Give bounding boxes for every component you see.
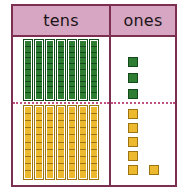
unit-cube bbox=[80, 143, 86, 150]
unit-cube bbox=[58, 121, 64, 128]
unit-cube bbox=[25, 93, 31, 99]
unit-cube bbox=[91, 93, 97, 99]
ten-rod-yellow bbox=[68, 106, 76, 179]
one-unit-yellow bbox=[129, 138, 137, 146]
ten-rod-yellow bbox=[57, 106, 65, 179]
ten-rod-yellow bbox=[35, 106, 43, 179]
unit-cube bbox=[58, 107, 64, 114]
unit-cube bbox=[36, 93, 42, 99]
unit-cube bbox=[69, 114, 75, 121]
unit-cube bbox=[91, 171, 97, 178]
tens-band-yellow bbox=[13, 104, 109, 183]
unit-cube bbox=[58, 157, 64, 164]
one-unit-yellow bbox=[150, 166, 158, 174]
unit-cube bbox=[47, 107, 53, 114]
column-ones bbox=[111, 37, 175, 185]
place-value-chart: tens ones bbox=[11, 4, 177, 187]
unit-cube bbox=[25, 164, 31, 171]
ten-rod-green bbox=[90, 40, 98, 100]
unit-cube bbox=[69, 135, 75, 142]
unit-cube bbox=[36, 164, 42, 171]
unit-cube bbox=[47, 121, 53, 128]
unit-cube bbox=[69, 150, 75, 157]
chart-header-row: tens ones bbox=[13, 6, 175, 37]
unit-cube bbox=[36, 157, 42, 164]
unit-cube bbox=[91, 107, 97, 114]
one-unit-green bbox=[129, 74, 137, 82]
unit-cube bbox=[36, 128, 42, 135]
tens-band-green bbox=[13, 37, 109, 104]
unit-cube bbox=[80, 135, 86, 142]
unit-cube bbox=[91, 128, 97, 135]
unit-cube bbox=[36, 150, 42, 157]
ten-rod-green bbox=[35, 40, 43, 100]
ones-band-green bbox=[111, 37, 175, 104]
unit-cube bbox=[80, 171, 86, 178]
tens-rod-group-green bbox=[13, 40, 109, 100]
ten-rod-yellow bbox=[79, 106, 87, 179]
unit-cube bbox=[91, 150, 97, 157]
header-cell-tens: tens bbox=[13, 6, 111, 35]
unit-cube bbox=[80, 150, 86, 157]
unit-cube bbox=[25, 143, 31, 150]
unit-cube bbox=[69, 107, 75, 114]
ten-rod-green bbox=[79, 40, 87, 100]
unit-cube bbox=[47, 143, 53, 150]
unit-cube bbox=[58, 150, 64, 157]
ones-unit-group-green bbox=[111, 58, 175, 106]
unit-cube bbox=[25, 114, 31, 121]
unit-cube bbox=[80, 128, 86, 135]
one-unit-yellow bbox=[129, 110, 137, 118]
unit-cube bbox=[36, 107, 42, 114]
ten-rod-yellow bbox=[46, 106, 54, 179]
header-label-ones: ones bbox=[124, 13, 163, 29]
unit-cube bbox=[69, 121, 75, 128]
header-label-tens: tens bbox=[43, 13, 78, 29]
unit-cube bbox=[58, 93, 64, 99]
chart-body-row bbox=[13, 37, 175, 185]
unit-cube bbox=[47, 114, 53, 121]
unit-cube bbox=[47, 164, 53, 171]
unit-cube bbox=[25, 171, 31, 178]
unit-cube bbox=[36, 135, 42, 142]
unit-cube bbox=[69, 164, 75, 171]
ten-rod-yellow bbox=[24, 106, 32, 179]
unit-cube bbox=[25, 121, 31, 128]
unit-cube bbox=[58, 135, 64, 142]
unit-cube bbox=[25, 107, 31, 114]
unit-cube bbox=[47, 128, 53, 135]
ten-rod-yellow bbox=[90, 106, 98, 179]
one-unit-green bbox=[129, 90, 137, 98]
unit-cube bbox=[80, 157, 86, 164]
unit-cube bbox=[58, 171, 64, 178]
unit-cube bbox=[91, 121, 97, 128]
unit-cube bbox=[58, 128, 64, 135]
unit-cube bbox=[36, 114, 42, 121]
unit-cube bbox=[69, 171, 75, 178]
tens-rod-group-yellow bbox=[13, 106, 109, 179]
unit-cube bbox=[25, 150, 31, 157]
column-tens bbox=[13, 37, 111, 185]
unit-cube bbox=[91, 114, 97, 121]
unit-cube bbox=[58, 114, 64, 121]
unit-cube bbox=[69, 157, 75, 164]
unit-cube bbox=[25, 135, 31, 142]
unit-cube bbox=[58, 143, 64, 150]
one-unit-yellow bbox=[129, 152, 137, 160]
ten-rod-green bbox=[24, 40, 32, 100]
unit-cube bbox=[47, 150, 53, 157]
unit-cube bbox=[80, 164, 86, 171]
unit-cube bbox=[91, 164, 97, 171]
unit-cube bbox=[69, 93, 75, 99]
unit-cube bbox=[91, 157, 97, 164]
unit-cube bbox=[80, 107, 86, 114]
unit-cube bbox=[91, 135, 97, 142]
one-unit-yellow bbox=[129, 166, 137, 174]
ten-rod-green bbox=[57, 40, 65, 100]
unit-cube bbox=[36, 121, 42, 128]
unit-cube bbox=[47, 93, 53, 99]
unit-cube bbox=[58, 164, 64, 171]
unit-cube bbox=[36, 171, 42, 178]
unit-cube bbox=[91, 143, 97, 150]
ones-band-yellow bbox=[111, 104, 175, 183]
